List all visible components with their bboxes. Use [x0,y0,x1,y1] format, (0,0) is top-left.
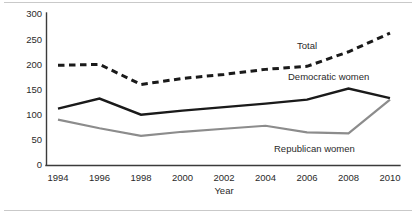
x-tick-label-1998: 1998 [130,172,151,183]
series-annotation-democratic-women: Democratic women [288,71,369,82]
y-tick-label-200: 200 [26,59,42,70]
y-tick-label-100: 100 [26,109,42,120]
line-chart: 300 250 200 150 100 50 0 1994 1996 1998 … [0,0,416,218]
chart-container: 300 250 200 150 100 50 0 1994 1996 1998 … [0,0,416,218]
series-line-republican-women [58,100,390,136]
x-tick-label-2000: 2000 [172,172,193,183]
series-annotation-total: Total [297,40,317,51]
series-annotation-republican-women: Republican women [274,143,355,154]
x-tick-label-2008: 2008 [338,172,359,183]
y-tick-label-0: 0 [37,159,42,170]
x-tick-label-1994: 1994 [47,172,68,183]
y-tick-label-250: 250 [26,34,42,45]
y-tick-label-50: 50 [31,134,42,145]
series-line-democratic-women [58,88,390,114]
x-tick-label-2006: 2006 [296,172,317,183]
y-tick-label-150: 150 [26,84,42,95]
x-tick-label-1996: 1996 [89,172,110,183]
x-tick-label-2004: 2004 [255,172,276,183]
x-axis-title: Year [214,185,233,196]
x-tick-label-2002: 2002 [213,172,234,183]
y-tick-label-300: 300 [26,8,42,19]
x-tick-label-2010: 2010 [379,172,400,183]
